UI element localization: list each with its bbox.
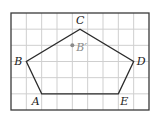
vertex-label-a: A [31,95,40,108]
vertex-label-b: B [13,55,22,68]
vertex-label-d: D [136,55,146,68]
vertex-label-e: E [119,95,128,108]
label-b-prime: B′ [75,41,87,54]
point-b-prime [70,43,74,47]
vertex-label-c: C [76,14,85,27]
pentagon-grid-diagram: ABCDE B′ [0,0,155,118]
